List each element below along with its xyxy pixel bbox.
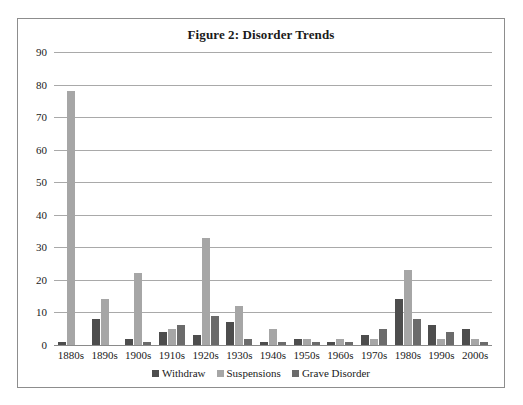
bar-group [290,52,324,345]
legend-label: Withdraw [162,367,206,379]
bar [379,329,387,345]
bar [134,273,142,345]
bar [336,339,344,346]
bar [193,335,201,345]
x-axis-tick-label: 1920s [189,348,223,362]
y-axis-tick-label: 50 [36,177,47,188]
y-axis-tick-label: 90 [36,47,47,58]
bar-group [458,52,492,345]
bar-group [222,52,256,345]
x-axis-tick-label: 1990s [425,348,459,362]
bar [177,325,185,345]
x-axis-tick-label: 1980s [391,348,425,362]
x-axis-tick-label: 1880s [54,348,88,362]
bar [125,339,133,346]
x-axis-tick-label: 1910s [155,348,189,362]
legend-label: Grave Disorder [302,367,370,379]
bar [211,316,219,345]
bar [437,339,445,346]
legend-label: Suspensions [227,367,281,379]
bar [480,342,488,345]
y-axis-tick-label: 30 [36,242,47,253]
bar [92,319,100,345]
x-axis-tick-label: 1940s [256,348,290,362]
bar [404,270,412,345]
legend-swatch-icon [217,370,224,377]
bar-group [155,52,189,345]
y-axis-tick-label: 20 [36,274,47,285]
figure-frame: Figure 2: Disorder Trends 01020304050607… [17,18,505,388]
x-axis-tick-label: 1950s [290,348,324,362]
gridline [54,345,492,346]
y-axis-tick-label: 80 [36,79,47,90]
x-axis-tick-label: 1930s [222,348,256,362]
bar [413,319,421,345]
page-title: Figure 2: Disorder Trends [18,27,504,43]
bar [312,342,320,345]
legend-swatch-icon [292,370,299,377]
bar [370,339,378,346]
bar [361,335,369,345]
bar [168,329,176,345]
bar [294,339,302,346]
x-axis-tick-label: 2000s [458,348,492,362]
y-axis-tick-label: 0 [42,340,48,351]
x-axis-tick-label: 1890s [88,348,122,362]
bar [327,342,335,345]
bar [462,329,470,345]
bar-group [88,52,122,345]
bar [159,332,167,345]
bar [269,329,277,345]
bar [345,342,353,345]
bar [235,306,243,345]
bar [101,299,109,345]
bar [428,325,436,345]
y-axis-tick-label: 70 [36,112,47,123]
x-axis-tick-label: 1970s [357,348,391,362]
y-axis-tick-label: 40 [36,209,47,220]
legend-swatch-icon [152,370,159,377]
bar [67,91,75,345]
x-axis-tick-labels: 1880s1890s1900s1910s1920s1930s1940s1950s… [54,348,492,364]
bar-group [425,52,459,345]
y-axis-tick-labels: 0102030405060708090 [18,52,51,345]
y-axis-tick-label: 10 [36,307,47,318]
bar-group [357,52,391,345]
legend-item: Grave Disorder [292,367,370,379]
bar-group [189,52,223,345]
bar [260,342,268,345]
bar [202,238,210,345]
x-axis-tick-label: 1900s [121,348,155,362]
bar-group [324,52,358,345]
legend-item: Withdraw [152,367,206,379]
bar [58,342,66,345]
bar-group [54,52,88,345]
bar-group [391,52,425,345]
x-axis-tick-label: 1960s [324,348,358,362]
bar [143,342,151,345]
bars-layer [54,52,492,345]
bar [303,339,311,346]
chart-legend: WithdrawSuspensionsGrave Disorder [18,367,504,379]
bar [395,299,403,345]
bar-group [121,52,155,345]
bar-group [256,52,290,345]
bar [446,332,454,345]
bar [244,339,252,346]
plot-area [54,52,492,345]
bar [471,339,479,346]
bar [278,342,286,345]
legend-item: Suspensions [217,367,281,379]
y-axis-tick-label: 60 [36,144,47,155]
bar [226,322,234,345]
